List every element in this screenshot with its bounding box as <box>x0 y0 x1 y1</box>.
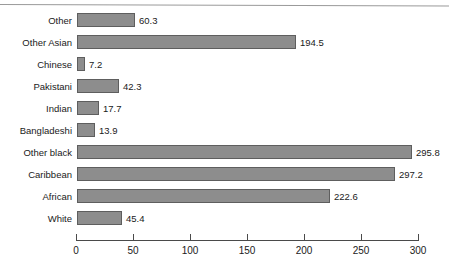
table-row: White 45.4 <box>0 210 449 228</box>
bar-mark <box>77 167 395 181</box>
x-tick-label: 250 <box>341 245 381 256</box>
category-label: Chinese <box>0 57 72 72</box>
table-row: African 222.6 <box>0 188 449 206</box>
bar-value-label: 297.2 <box>399 167 423 182</box>
category-label: White <box>0 211 72 226</box>
x-tick-mark <box>133 234 134 240</box>
bar-mark <box>77 145 412 159</box>
x-tick-mark <box>418 234 419 240</box>
bar-mark <box>77 101 99 115</box>
bar-value-label: 13.9 <box>99 123 118 138</box>
table-row: Bangladeshi 13.9 <box>0 122 449 140</box>
bar-value-label: 194.5 <box>300 35 324 50</box>
table-row: Pakistani 42.3 <box>0 78 449 96</box>
category-label: Bangladeshi <box>0 123 72 138</box>
category-label: Other black <box>0 145 72 160</box>
table-row: Chinese 7.2 <box>0 56 449 74</box>
category-label: Pakistani <box>0 79 72 94</box>
bar-value-label: 295.8 <box>416 145 440 160</box>
category-label: Other <box>0 13 72 28</box>
x-tick-mark <box>361 234 362 240</box>
x-axis-line <box>76 240 419 241</box>
plot-area: Other 60.3 Other Asian 194.5 Chinese 7.2… <box>0 0 449 267</box>
table-row: Other Asian 194.5 <box>0 34 449 52</box>
bar-mark <box>77 189 330 203</box>
bar-value-label: 7.2 <box>89 57 102 72</box>
bar-value-label: 42.3 <box>123 79 142 94</box>
x-tick-mark <box>76 234 77 240</box>
bar-mark <box>77 13 135 27</box>
table-row: Other 60.3 <box>0 12 449 30</box>
bar-chart-figure: Other 60.3 Other Asian 194.5 Chinese 7.2… <box>0 0 449 267</box>
x-tick-label: 200 <box>284 245 324 256</box>
x-tick-label: 150 <box>227 245 267 256</box>
x-tick-label: 50 <box>113 245 153 256</box>
bar-mark <box>77 35 296 49</box>
x-tick-mark <box>247 234 248 240</box>
category-label: Caribbean <box>0 167 72 182</box>
bar-mark <box>77 79 119 93</box>
table-row: Other black 295.8 <box>0 144 449 162</box>
bar-value-label: 60.3 <box>139 13 158 28</box>
x-tick-mark <box>190 234 191 240</box>
table-row: Indian 17.7 <box>0 100 449 118</box>
bar-value-label: 45.4 <box>126 211 145 226</box>
category-label: African <box>0 189 72 204</box>
x-tick-label: 0 <box>56 245 96 256</box>
x-tick-label: 100 <box>170 245 210 256</box>
bar-mark <box>77 57 85 71</box>
bar-value-label: 17.7 <box>103 101 122 116</box>
bar-mark <box>77 123 95 137</box>
table-row: Caribbean 297.2 <box>0 166 449 184</box>
x-tick-label: 300 <box>398 245 438 256</box>
bar-value-label: 222.6 <box>334 189 358 204</box>
x-tick-mark <box>304 234 305 240</box>
bar-mark <box>77 211 122 225</box>
category-label: Indian <box>0 101 72 116</box>
category-label: Other Asian <box>0 35 72 50</box>
